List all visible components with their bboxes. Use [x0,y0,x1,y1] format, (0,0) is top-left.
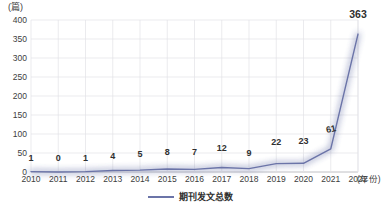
data-label-2016: 7 [192,147,197,157]
data-label-2011: 0 [56,153,61,163]
data-label-2015: 8 [165,147,170,157]
data-label-2021: 61 [325,123,337,135]
x-axis-tick-2010: 2010 [22,174,41,184]
data-label-2012: 1 [83,153,88,163]
data-label-2019: 22 [271,137,281,147]
y-axis-tick-150: 150 [1,111,27,120]
data-label-2010: 1 [28,153,33,163]
legend-line-swatch [148,196,174,198]
x-axis-tick-2017: 2017 [212,174,231,184]
x-axis-tick-2020: 2020 [294,174,313,184]
y-axis-tick-50: 50 [1,149,27,158]
x-axis-tick-2013: 2013 [103,174,122,184]
chart-legend: 期刊发文总数 [0,192,381,202]
x-axis-tick-2018: 2018 [240,174,259,184]
y-axis-tick-400: 400 [1,16,27,25]
x-axis-tick-2014: 2014 [131,174,150,184]
x-axis-tick-2016: 2016 [185,174,204,184]
y-axis-tick-350: 350 [1,35,27,44]
y-axis-tick-200: 200 [1,92,27,101]
data-label-2018: 9 [246,148,251,158]
data-label-2013: 4 [110,151,115,161]
data-label-2017: 12 [217,143,227,153]
x-axis-tick-2019: 2019 [267,174,286,184]
y-axis-tick-250: 250 [1,73,27,82]
data-label-2014: 5 [137,149,142,159]
x-axis-tick-2021: 2021 [321,174,340,184]
data-label-2020: 23 [298,136,308,146]
legend-item-label: 期刊发文总数 [179,192,233,202]
y-axis-unit-label: (篇) [8,2,23,12]
y-axis-tick-100: 100 [1,130,27,139]
x-axis-tick-2012: 2012 [76,174,95,184]
x-axis-tick-2015: 2015 [158,174,177,184]
line-chart: (篇) 050100150200250300350400 [0,0,381,209]
x-axis-caption: (年份) [357,174,381,184]
data-label-2022: 363 [349,9,367,19]
y-axis-tick-300: 300 [1,54,27,63]
x-axis-tick-2011: 2011 [49,174,67,184]
